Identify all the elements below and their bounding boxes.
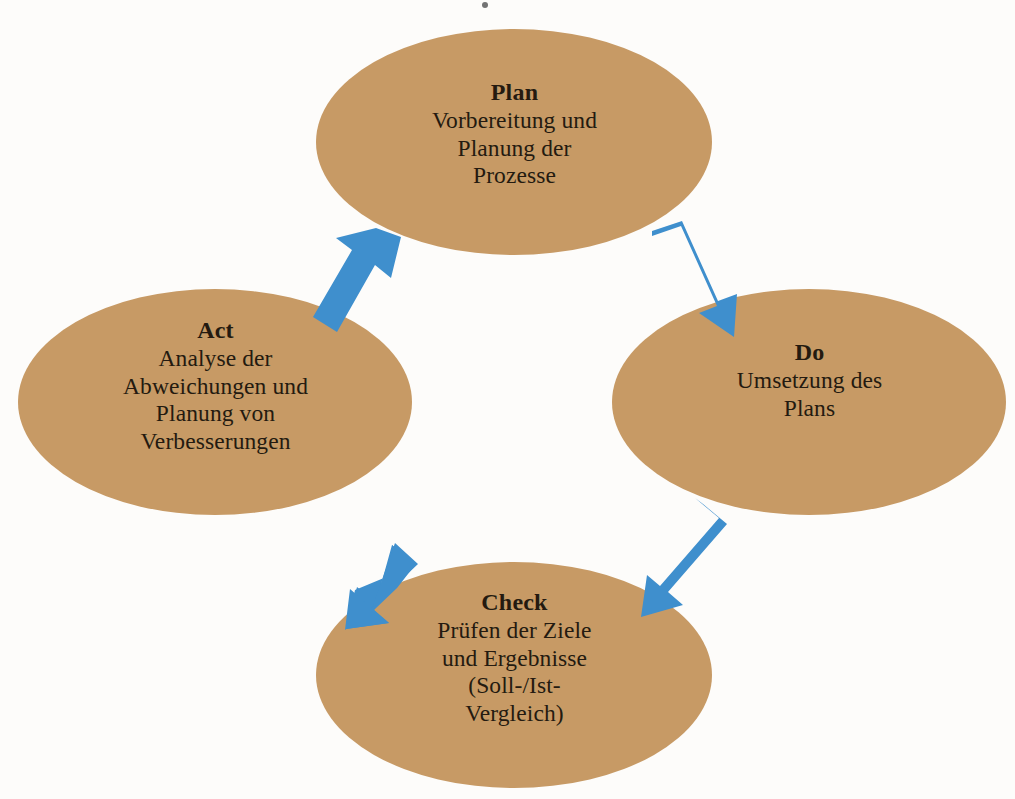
diagram-canvas — [0, 0, 1015, 799]
node-ellipse-do — [612, 289, 1006, 515]
pdca-cycle-diagram: Plan Vorbereitung und Planung der Prozes… — [0, 0, 1015, 799]
arrow-act-to-plan — [313, 228, 401, 332]
scan-speck — [482, 2, 488, 8]
arrow-do-to-check — [641, 498, 727, 617]
node-ellipse-plan — [316, 29, 712, 255]
node-ellipse-act — [18, 289, 412, 515]
